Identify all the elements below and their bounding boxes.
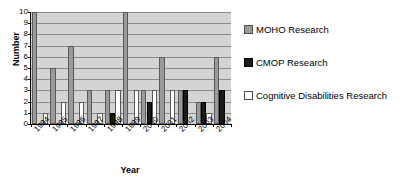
bar-moho-1997 — [87, 90, 92, 124]
legend-swatch-cmop-icon — [244, 58, 253, 67]
y-tick-label: 10 — [19, 8, 28, 16]
y-tick-mark — [28, 34, 31, 35]
y-tick-label: 4 — [24, 75, 28, 83]
bar-group — [67, 12, 85, 124]
y-tick-label: 8 — [24, 30, 28, 38]
y-tick-mark — [28, 79, 31, 80]
chart-legend: MOHO Research CMOP Research Cognitive Di… — [244, 24, 402, 123]
bar-group — [176, 12, 194, 124]
bar-moho-2001 — [159, 57, 164, 124]
y-tick-mark — [28, 57, 31, 58]
bar-group — [158, 12, 176, 124]
bar-group — [195, 12, 213, 124]
legend-item-moho: MOHO Research — [244, 24, 402, 35]
bar-group — [49, 12, 67, 124]
y-tick-mark — [28, 68, 31, 69]
legend-swatch-moho-icon — [244, 25, 253, 34]
legend-swatch-cognitive-disabilities-icon — [244, 91, 253, 100]
bar-moho-1995 — [50, 68, 55, 124]
bar-group — [213, 12, 231, 124]
y-tick-label: 7 — [24, 42, 28, 50]
legend-label-cognitive-disabilities: Cognitive Disabilities Research — [256, 90, 387, 101]
plot-area: 012345678910 — [30, 12, 231, 125]
legend-label-cmop: CMOP Research — [256, 57, 328, 68]
x-axis-title: Year — [30, 165, 230, 175]
y-tick-label: 6 — [24, 53, 28, 61]
x-tick-mark — [231, 124, 232, 127]
bar-series-container — [31, 12, 231, 124]
bar-group — [122, 12, 140, 124]
y-tick-label: 0 — [24, 120, 28, 128]
y-tick-mark — [28, 12, 31, 13]
bar-group — [104, 12, 122, 124]
bar-group — [31, 12, 49, 124]
y-tick-mark — [28, 23, 31, 24]
bar-moho-1996 — [68, 46, 73, 124]
bar-moho-1994 — [32, 12, 37, 124]
y-tick-label: 2 — [24, 98, 28, 106]
y-tick-mark — [28, 46, 31, 47]
legend-item-cmop: CMOP Research — [244, 57, 402, 68]
legend-label-moho: MOHO Research — [256, 24, 329, 35]
y-tick-mark — [28, 90, 31, 91]
y-tick-mark — [28, 102, 31, 103]
legend-item-cognitive-disabilities: Cognitive Disabilities Research — [244, 90, 402, 101]
bar-group — [140, 12, 158, 124]
y-tick-label: 3 — [24, 86, 28, 94]
bar-group — [86, 12, 104, 124]
y-tick-label: 5 — [24, 64, 28, 72]
bar-moho-1999 — [123, 12, 128, 124]
chart-figure: Number 012345678910 Year MOHO Research C… — [0, 0, 404, 186]
y-tick-label: 9 — [24, 19, 28, 27]
y-axis-title: Number — [11, 9, 21, 89]
y-tick-mark — [28, 113, 31, 114]
y-tick-label: 1 — [24, 109, 28, 117]
